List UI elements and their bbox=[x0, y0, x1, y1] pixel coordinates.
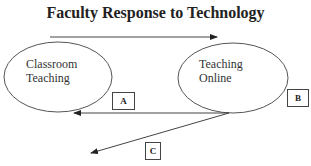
left-node-line1: Classroom bbox=[26, 57, 77, 71]
right-node-line1: Teaching bbox=[199, 57, 243, 71]
right-node-line2: Online bbox=[199, 71, 243, 85]
label-box-b: B bbox=[287, 89, 309, 107]
label-box-c: C bbox=[145, 142, 161, 160]
left-node-label: Classroom Teaching bbox=[26, 57, 77, 85]
right-node-label: Teaching Online bbox=[199, 57, 243, 85]
left-node-line2: Teaching bbox=[26, 71, 77, 85]
label-box-a: A bbox=[112, 92, 135, 110]
